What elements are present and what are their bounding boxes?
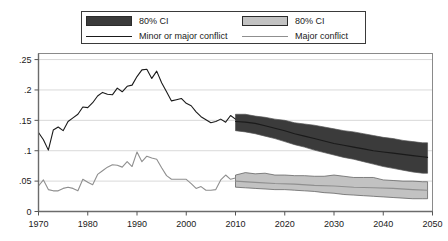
x-tick-label-2: 1990: [127, 219, 147, 229]
x-tick-label-5: 2020: [275, 219, 295, 229]
series-line-0: [39, 69, 236, 150]
x-tick-label-4: 2010: [225, 219, 245, 229]
plot-area: 0.05.1.15.2.2519701980199020002010202020…: [0, 0, 448, 241]
y-tick-label-4: .2: [24, 85, 32, 95]
x-tick-label-8: 2050: [422, 219, 442, 229]
x-tick-label-1: 1980: [78, 219, 98, 229]
x-tick-label-0: 1970: [28, 219, 48, 229]
x-tick-label-3: 2000: [176, 219, 196, 229]
y-tick-label-2: .1: [24, 146, 32, 156]
y-tick-label-3: .15: [19, 116, 32, 126]
x-tick-label-6: 2030: [324, 219, 344, 229]
x-tick-label-7: 2040: [373, 219, 393, 229]
y-tick-label-1: .05: [19, 176, 32, 186]
chart-figure: 80% CI Minor or major conflict 80% CI Ma…: [0, 0, 448, 241]
series-line-1: [39, 152, 236, 191]
y-tick-label-5: .25: [19, 55, 32, 65]
confidence-band-0: [236, 114, 428, 173]
y-tick-label-0: 0: [26, 207, 31, 217]
